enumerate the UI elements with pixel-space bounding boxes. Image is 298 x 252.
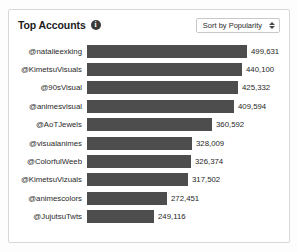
bar-category-label: @visualanimes	[9, 139, 87, 148]
bar-category-label: @90sVisual	[9, 83, 87, 92]
bar-value-label: 328,009	[192, 139, 224, 148]
card-header: Top Accounts i Sort by Popularity	[9, 10, 289, 40]
info-icon[interactable]: i	[91, 20, 101, 30]
page-background: Top Accounts i Sort by Popularity @natal…	[0, 0, 298, 252]
bar[interactable]	[87, 100, 234, 113]
bar-track: 499,631	[87, 42, 289, 60]
bar-value-label: 499,631	[247, 47, 279, 56]
bar-track: 326,374	[87, 152, 289, 170]
top-accounts-card: Top Accounts i Sort by Popularity @natal…	[8, 9, 290, 243]
bar-category-label: @animesvisual	[9, 102, 87, 111]
bar-row: @AoTJewels360,592	[9, 116, 289, 134]
bar-track: 409,594	[87, 97, 289, 115]
bar[interactable]	[87, 155, 191, 168]
bar-value-label: 440,100	[242, 65, 274, 74]
bar[interactable]	[87, 210, 154, 223]
bar-track: 317,502	[87, 171, 289, 189]
bar-row: @visualanimes328,009	[9, 134, 289, 152]
bar[interactable]	[87, 173, 188, 186]
bar-value-label: 425,332	[238, 83, 270, 92]
bar-value-label: 317,502	[188, 175, 220, 184]
bar[interactable]	[87, 63, 242, 76]
page-title: Top Accounts	[18, 19, 86, 31]
bar-row: @animesvisual409,594	[9, 97, 289, 115]
sort-by-select-value: Sort by Popularity	[203, 21, 262, 30]
bar-category-label: @AoTJewels	[9, 120, 87, 129]
bar-row: @natalieexking499,631	[9, 42, 289, 60]
bar[interactable]	[87, 45, 247, 58]
bar-category-label: @animescolors	[9, 194, 87, 203]
bar[interactable]	[87, 137, 192, 150]
bar-row: @ColorfulWeeb326,374	[9, 152, 289, 170]
bar-value-label: 249,116	[154, 212, 186, 221]
bar-track: 440,100	[87, 60, 289, 78]
card-title-group: Top Accounts i	[18, 19, 101, 31]
bar-track: 360,592	[87, 116, 289, 134]
bar[interactable]	[87, 81, 238, 94]
sort-by-select[interactable]: Sort by Popularity	[196, 18, 280, 33]
bar-category-label: @KimetsuVisuals	[9, 65, 87, 74]
bar-track: 272,451	[87, 189, 289, 207]
bar-row: @animescolors272,451	[9, 189, 289, 207]
bar-row: @KimetsuVizuals317,502	[9, 171, 289, 189]
bar-chart: @natalieexking499,631@KimetsuVisuals440,…	[9, 40, 289, 226]
bar-category-label: @ColorfulWeeb	[9, 157, 87, 166]
bar-row: @KimetsuVisuals440,100	[9, 60, 289, 78]
bar-track: 425,332	[87, 79, 289, 97]
bar-value-label: 409,594	[234, 102, 266, 111]
bar[interactable]	[87, 118, 212, 131]
bar[interactable]	[87, 192, 167, 205]
bar-track: 249,116	[87, 208, 289, 226]
bar-track: 328,009	[87, 134, 289, 152]
bar-value-label: 326,374	[191, 157, 223, 166]
bar-category-label: @JujutsuTwts	[9, 212, 87, 221]
bar-row: @JujutsuTwts249,116	[9, 208, 289, 226]
bar-category-label: @natalieexking	[9, 47, 87, 56]
updown-caret-icon	[268, 21, 275, 30]
bar-value-label: 360,592	[212, 120, 244, 129]
bar-value-label: 272,451	[167, 194, 199, 203]
bar-category-label: @KimetsuVizuals	[9, 175, 87, 184]
bar-row: @90sVisual425,332	[9, 79, 289, 97]
